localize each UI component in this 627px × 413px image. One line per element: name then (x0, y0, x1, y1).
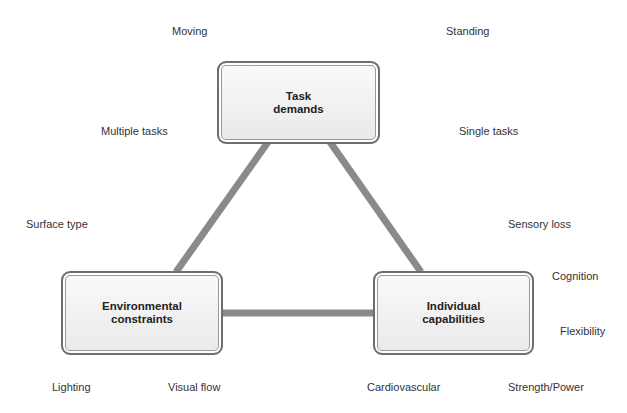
label-surface-type: Surface type (26, 218, 88, 230)
label-single-tasks: Single tasks (459, 125, 518, 137)
label-sensory-loss: Sensory loss (508, 218, 571, 230)
label-flexibility: Flexibility (560, 325, 605, 337)
label-moving: Moving (172, 25, 207, 37)
task-individual-connector (330, 142, 421, 272)
label-lighting: Lighting (52, 381, 91, 393)
individual-capabilities-node: Individual capabilities (373, 271, 534, 355)
label-cognition: Cognition (552, 270, 598, 282)
task-demands-node: Task demands (217, 61, 380, 144)
label-visual-flow: Visual flow (168, 381, 220, 393)
label-strength-power: Strength/Power (508, 381, 584, 393)
task-demands-label: Task demands (273, 90, 324, 116)
task-environment-connector (176, 142, 268, 272)
label-standing: Standing (446, 25, 489, 37)
environmental-constraints-label: Environmental constraints (102, 300, 182, 326)
label-cardiovascular: Cardiovascular (367, 381, 440, 393)
label-multiple-tasks: Multiple tasks (101, 125, 168, 137)
environmental-constraints-node: Environmental constraints (61, 271, 223, 355)
individual-capabilities-label: Individual capabilities (422, 300, 485, 326)
